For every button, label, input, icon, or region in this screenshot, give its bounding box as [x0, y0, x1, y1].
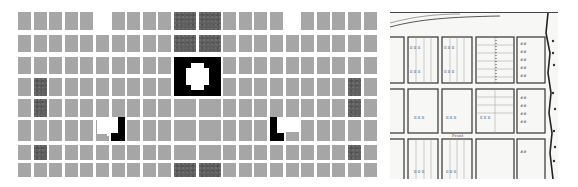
city-block	[301, 12, 314, 30]
city-block	[332, 35, 345, 52]
city-block	[112, 78, 125, 96]
city-block	[239, 145, 252, 160]
city-block	[270, 99, 283, 117]
city-block	[317, 145, 330, 160]
city-block	[286, 145, 299, 160]
highlight-block	[199, 12, 221, 30]
city-block	[270, 78, 283, 96]
city-block	[18, 78, 31, 96]
city-block	[254, 12, 267, 30]
city-block	[112, 145, 125, 160]
svg-text:##: ##	[520, 119, 527, 124]
highlight-block	[199, 163, 221, 177]
city-block	[332, 57, 345, 74]
city-block	[286, 35, 299, 52]
city-block	[49, 57, 62, 74]
city-block	[65, 163, 78, 177]
city-block	[364, 99, 377, 117]
city-block	[239, 12, 252, 30]
city-block	[112, 99, 125, 117]
city-block	[223, 78, 236, 96]
svg-text:ll ll ll: ll ll ll	[410, 69, 421, 74]
city-block	[332, 12, 345, 30]
city-block	[317, 163, 330, 177]
city-block	[143, 145, 156, 160]
svg-text:ll ll ll: ll ll ll	[414, 169, 425, 174]
city-block	[96, 99, 109, 117]
city-block	[96, 78, 109, 96]
city-block	[286, 57, 299, 74]
right-L-plaza-foot	[270, 133, 284, 141]
city-block	[364, 120, 377, 141]
highlight-block	[34, 99, 47, 117]
city-block	[127, 145, 140, 160]
city-block	[332, 99, 345, 117]
city-block	[239, 78, 252, 96]
city-block	[158, 120, 171, 141]
highlight-block	[348, 145, 361, 160]
city-block	[158, 163, 171, 177]
city-block	[364, 12, 377, 30]
city-block	[286, 99, 299, 117]
svg-text:Front: Front	[452, 133, 464, 138]
city-block	[34, 163, 47, 177]
city-block	[49, 12, 62, 30]
city-block	[254, 35, 267, 52]
city-block	[239, 99, 252, 117]
city-block	[364, 35, 377, 52]
city-block	[34, 35, 47, 52]
svg-text:##: ##	[520, 73, 527, 78]
city-block	[143, 35, 156, 52]
svg-text:##: ##	[520, 95, 527, 100]
city-block	[254, 78, 267, 96]
city-block	[332, 145, 345, 160]
city-block	[18, 99, 31, 117]
city-block	[96, 145, 109, 160]
svg-text:##: ##	[520, 111, 527, 116]
city-block	[348, 120, 361, 141]
svg-text:ll ll ll: ll ll ll	[444, 69, 455, 74]
map-drawing: ll ll llll ll ll ll ll llll ll ll ######…	[390, 13, 558, 179]
city-block	[143, 120, 156, 141]
city-block	[18, 145, 31, 160]
city-block	[65, 120, 78, 141]
city-block	[254, 57, 267, 74]
city-block	[80, 120, 93, 141]
city-block	[96, 163, 109, 177]
city-block	[18, 12, 31, 30]
city-block	[223, 12, 236, 30]
plaza-courtyard-v	[191, 63, 204, 90]
right-plaza-white	[277, 120, 299, 132]
city-block	[348, 57, 361, 74]
city-block	[65, 78, 78, 96]
city-block	[301, 78, 314, 96]
city-block	[199, 120, 221, 141]
city-block	[127, 35, 140, 52]
city-block	[239, 35, 252, 52]
city-block	[270, 145, 283, 160]
highlight-block	[174, 35, 196, 52]
city-block	[348, 12, 361, 30]
svg-text:ll ll ll: ll ll ll	[446, 169, 457, 174]
city-block	[112, 12, 125, 30]
city-block	[254, 120, 267, 141]
city-block	[301, 120, 314, 141]
city-block	[317, 35, 330, 52]
city-block	[143, 12, 156, 30]
city-block	[223, 99, 236, 117]
city-block	[223, 57, 236, 74]
city-block	[301, 99, 314, 117]
city-block	[223, 35, 236, 52]
city-block	[364, 145, 377, 160]
city-block	[174, 99, 196, 117]
city-block	[348, 163, 361, 177]
city-block	[332, 120, 345, 141]
city-block	[127, 99, 140, 117]
city-block	[158, 99, 171, 117]
city-block	[199, 99, 221, 117]
city-block	[80, 99, 93, 117]
left-plaza-small-block	[97, 134, 107, 140]
svg-text:ll ll ll: ll ll ll	[444, 45, 455, 50]
city-block	[80, 57, 93, 74]
city-block	[143, 163, 156, 177]
